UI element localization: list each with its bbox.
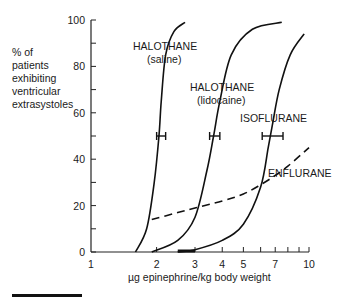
series-line-3 xyxy=(152,148,309,220)
y-tick-label: 60 xyxy=(73,107,85,119)
label-halothane-lidocaine-1: HALOTHANE xyxy=(190,81,254,93)
x-tick-label: 3 xyxy=(192,258,198,270)
label-halothane-saline-2: (saline) xyxy=(147,53,181,65)
y-tick-label: 100 xyxy=(67,14,85,26)
axes: 02040608010012345710 xyxy=(67,14,315,270)
label-halothane-lidocaine-2: (lidocaine) xyxy=(197,94,245,106)
label-enflurane: ENFLURANE xyxy=(268,167,332,179)
y-tick-label: 20 xyxy=(73,200,85,212)
label-isoflurane: ISOFLURANE xyxy=(240,112,307,124)
series-labels: HALOTHANE (saline) HALOTHANE (lidocaine)… xyxy=(133,40,332,179)
y-tick-label: 40 xyxy=(73,153,85,165)
x-tick-label: 1 xyxy=(88,258,94,270)
x-tick-label: 7 xyxy=(272,258,278,270)
label-halothane-saline-1: HALOTHANE xyxy=(133,40,197,52)
y-tick-label: 80 xyxy=(73,60,85,72)
x-axis-label: µg epinephrine/kg body weight xyxy=(128,271,271,283)
series-line-2 xyxy=(178,34,304,252)
x-tick-label: 4 xyxy=(219,258,225,270)
x-tick-label: 10 xyxy=(303,258,315,270)
x-tick-label: 5 xyxy=(240,258,246,270)
y-tick-label: 0 xyxy=(79,246,85,258)
x-tick-label: 2 xyxy=(154,258,160,270)
chart-canvas: 02040608010012345710 HALOTHANE (saline) … xyxy=(0,0,338,297)
